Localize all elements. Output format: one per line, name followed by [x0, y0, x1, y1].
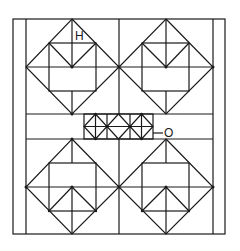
diamond-top-left [26, 19, 119, 116]
geometric-diagram: H O [0, 0, 240, 251]
diamond-top-right [118, 19, 215, 114]
center-strip [26, 113, 213, 140]
label-o-group: O [153, 126, 173, 140]
diamond-bottom-left [25, 138, 120, 235]
diamond-bottom-right [118, 139, 215, 234]
label-o: O [164, 126, 173, 140]
label-h: H [75, 29, 84, 43]
